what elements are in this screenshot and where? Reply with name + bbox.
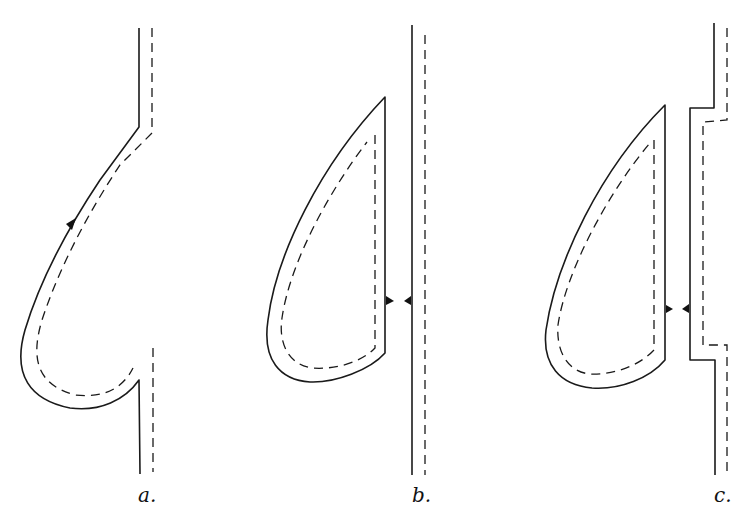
panel-b-droplet-marker — [386, 296, 394, 305]
panel-b — [267, 25, 425, 475]
panel-a-label: a. — [138, 483, 156, 507]
panel-b-label: b. — [412, 483, 431, 507]
panel-b-wall-marker — [404, 296, 411, 305]
diagram-canvas — [0, 0, 749, 520]
panel-c-droplet-marker — [666, 305, 673, 313]
panel-c-droplet-dashed — [558, 140, 654, 374]
panel-a — [21, 28, 153, 474]
panel-c — [545, 23, 727, 475]
panel-c-wall-marker — [682, 304, 689, 313]
panel-a-arrow-marker — [66, 218, 76, 230]
panel-c-label: c. — [714, 483, 732, 507]
panel-b-droplet-solid — [267, 97, 385, 382]
panel-a-dashed-contour — [37, 28, 152, 396]
panel-a-solid-contour — [21, 28, 140, 474]
